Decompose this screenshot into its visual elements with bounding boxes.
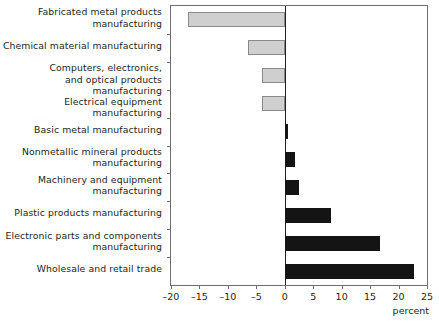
bar bbox=[262, 68, 285, 83]
x-axis-tick bbox=[256, 285, 257, 289]
x-axis-tick bbox=[427, 285, 428, 289]
category-label: Chemical material manufacturing bbox=[3, 40, 162, 52]
x-axis-tick-label: 15 bbox=[355, 291, 385, 302]
x-axis-tick-label: –15 bbox=[184, 291, 214, 302]
bar bbox=[285, 208, 332, 223]
bar bbox=[248, 40, 285, 55]
bar bbox=[285, 264, 415, 279]
x-axis-tick bbox=[313, 285, 314, 289]
x-axis-tick bbox=[199, 285, 200, 289]
x-axis-tick-label: 10 bbox=[327, 291, 357, 302]
x-axis-tick bbox=[171, 285, 172, 289]
bar-chart: Fabricated metal products manufacturingC… bbox=[0, 0, 439, 324]
category-label: Machinery and equipment manufacturing bbox=[38, 174, 162, 197]
x-axis-tick bbox=[370, 285, 371, 289]
bar bbox=[262, 96, 285, 111]
x-axis-tick bbox=[228, 285, 229, 289]
bar bbox=[285, 152, 295, 167]
category-tick bbox=[167, 34, 171, 35]
category-label: Fabricated metal products manufacturing bbox=[38, 6, 162, 29]
category-label: Nonmetallic mineral products manufacturi… bbox=[22, 146, 162, 169]
category-tick bbox=[167, 118, 171, 119]
category-axis-labels: Fabricated metal products manufacturingC… bbox=[0, 5, 166, 286]
category-label: Computers, electronics, and optical prod… bbox=[0, 62, 162, 97]
x-axis-tick-label: 20 bbox=[384, 291, 414, 302]
plot-area bbox=[170, 5, 428, 286]
plot-inner bbox=[171, 6, 427, 285]
category-label: Basic metal manufacturing bbox=[34, 124, 162, 136]
category-tick bbox=[167, 229, 171, 230]
x-axis-tick-label: –5 bbox=[241, 291, 271, 302]
category-label: Electronic parts and components manufact… bbox=[6, 230, 162, 253]
bar bbox=[188, 12, 285, 27]
x-axis-tick bbox=[285, 285, 286, 289]
category-tick bbox=[167, 62, 171, 63]
bar bbox=[285, 180, 299, 195]
category-tick bbox=[167, 90, 171, 91]
x-axis-tick-label: –20 bbox=[156, 291, 186, 302]
bar bbox=[285, 124, 288, 139]
x-axis-tick bbox=[399, 285, 400, 289]
category-tick bbox=[167, 146, 171, 147]
category-tick bbox=[167, 201, 171, 202]
category-label: Wholesale and retail trade bbox=[37, 263, 162, 275]
x-axis-tick-label: 0 bbox=[270, 291, 300, 302]
category-label: Electrical equipment manufacturing bbox=[0, 96, 162, 119]
x-axis-tick-label: –10 bbox=[213, 291, 243, 302]
x-axis-tick-label: 5 bbox=[298, 291, 328, 302]
category-label: Plastic products manufacturing bbox=[14, 207, 162, 219]
category-tick bbox=[167, 173, 171, 174]
x-axis-tick bbox=[342, 285, 343, 289]
x-axis-title: percent bbox=[393, 305, 429, 316]
bar bbox=[285, 236, 381, 251]
x-axis-tick-label: 25 bbox=[412, 291, 439, 302]
category-tick bbox=[167, 257, 171, 258]
